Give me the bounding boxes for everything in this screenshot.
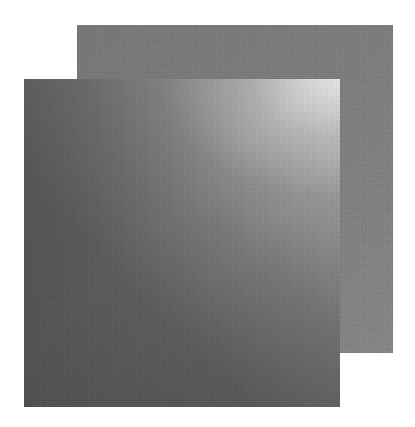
front-square: [24, 79, 340, 407]
grain-texture: [24, 79, 340, 407]
